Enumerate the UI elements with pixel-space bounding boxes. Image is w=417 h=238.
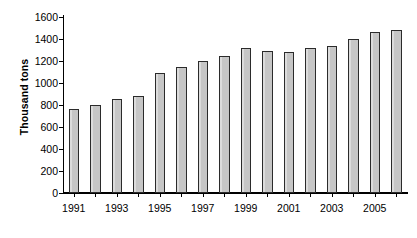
y-axis-tick-mark [59, 193, 63, 194]
bar [133, 96, 144, 193]
bar [241, 48, 252, 193]
x-axis-tick-label: 1991 [62, 203, 85, 214]
x-axis-tick-mark [95, 193, 96, 197]
bar [69, 109, 80, 193]
x-axis-tick-label: 2001 [277, 203, 300, 214]
y-axis-tick-mark [59, 17, 63, 18]
bar [327, 46, 338, 193]
x-axis-tick-mark [181, 193, 182, 197]
y-axis-tick-mark [59, 171, 63, 172]
bar [391, 30, 402, 193]
x-axis-tick-mark [396, 193, 397, 197]
x-axis-tick-mark [332, 193, 333, 197]
y-axis-title: Thousand tons [14, 0, 34, 193]
y-axis-tick-label: 1600 [35, 12, 58, 23]
plot-area: 02004006008001000120014001600 1991199319… [63, 17, 407, 193]
x-axis-tick-mark [117, 193, 118, 197]
y-axis-tick-label: 400 [40, 144, 58, 155]
x-axis-tick-mark [375, 193, 376, 197]
x-axis-tick-mark [267, 193, 268, 197]
x-axis-tick-mark [203, 193, 204, 197]
y-axis-tick-label: 1000 [35, 78, 58, 89]
bar [219, 56, 230, 193]
y-axis-tick-mark [59, 105, 63, 106]
bar [90, 105, 101, 193]
x-axis-tick-label: 1993 [105, 203, 128, 214]
x-axis-tick-label: 1995 [148, 203, 171, 214]
x-axis-tick-label: 2003 [320, 203, 343, 214]
y-axis-tick-label: 0 [52, 188, 58, 199]
bar [198, 61, 209, 193]
bar [348, 39, 359, 193]
bar [112, 99, 123, 193]
bar [155, 73, 166, 193]
y-axis-tick-label: 1400 [35, 34, 58, 45]
y-axis-title-label: Thousand tons [18, 58, 30, 135]
x-axis-tick-mark [224, 193, 225, 197]
bar [370, 32, 381, 193]
y-axis-tick-mark [59, 127, 63, 128]
y-axis-tick-mark [59, 61, 63, 62]
y-axis-tick-label: 1200 [35, 56, 58, 67]
y-axis-tick-label: 600 [40, 122, 58, 133]
x-axis-tick-label: 2005 [363, 203, 386, 214]
y-axis-tick-mark [59, 149, 63, 150]
bar [305, 48, 316, 193]
bar [284, 52, 295, 193]
x-axis-tick-label: 1999 [234, 203, 257, 214]
bar [176, 67, 187, 194]
x-axis-tick-mark [246, 193, 247, 197]
x-axis-tick-mark [138, 193, 139, 197]
x-axis-tick-mark [310, 193, 311, 197]
x-axis-tick-mark [353, 193, 354, 197]
x-axis-tick-label: 1997 [191, 203, 214, 214]
bar [262, 51, 273, 193]
y-axis-tick-mark [59, 83, 63, 84]
y-axis-tick-label: 800 [40, 100, 58, 111]
x-axis-tick-mark [289, 193, 290, 197]
bar-chart: Thousand tons 02004006008001000120014001… [0, 0, 417, 238]
y-axis-tick-mark [59, 39, 63, 40]
y-axis-tick-label: 200 [40, 166, 58, 177]
x-axis-tick-mark [160, 193, 161, 197]
x-axis-tick-mark [74, 193, 75, 197]
